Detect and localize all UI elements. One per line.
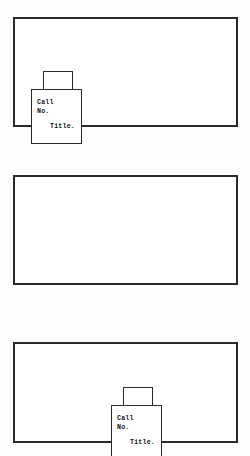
- drawer-panel-top: Call No. Title.: [13, 17, 238, 127]
- card-body: Call No. Title.: [111, 405, 162, 456]
- card-text-block: Call No. Title.: [37, 99, 78, 132]
- card-no-label: No.: [117, 424, 158, 433]
- card-no-label: No.: [37, 108, 78, 117]
- drawer-panel-middle: Call No. Title.: [13, 175, 238, 285]
- card-tab-icon: [123, 387, 153, 406]
- card-text-block: Call No. Title.: [117, 415, 158, 448]
- card-tab-icon: [43, 71, 73, 90]
- card-call-label: Call: [117, 415, 158, 424]
- card-body: Call No. Title.: [31, 89, 82, 144]
- card-title-label: Title.: [37, 123, 78, 132]
- card-position-figure: Call No. Title. Call No. Title.: [0, 0, 250, 456]
- card-title-label: Title.: [117, 439, 158, 448]
- card-call-label: Call: [37, 99, 78, 108]
